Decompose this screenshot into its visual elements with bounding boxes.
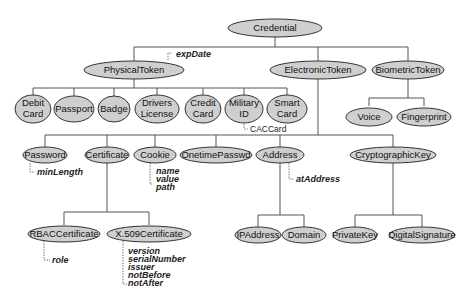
svg-text:BiometricToken: BiometricToken — [376, 64, 441, 75]
svg-text:Voice: Voice — [357, 111, 380, 122]
svg-text:Credit: Credit — [190, 97, 216, 108]
node-debit-card: Debit Card — [15, 95, 51, 123]
node-certificate: Certificate — [85, 147, 129, 163]
svg-text:Certificate: Certificate — [86, 149, 129, 160]
svg-text:Passport: Passport — [55, 103, 93, 114]
node-password: Password — [23, 147, 67, 163]
svg-text:Drivers: Drivers — [142, 97, 172, 108]
attr-path: path — [155, 182, 176, 192]
svg-text:DigitalSignature: DigitalSignature — [388, 229, 455, 240]
svg-text:Badge: Badge — [100, 103, 127, 114]
credential-taxonomy-diagram: Credential PhysicalToken ElectronicToken… — [0, 0, 463, 300]
svg-text:Address: Address — [263, 149, 298, 160]
node-cookie: Cookie — [134, 147, 176, 163]
node-x509-certificate: X.509Certificate — [107, 226, 191, 242]
node-smart-card: Smart Card — [267, 95, 307, 123]
node-domain: Domain — [282, 227, 326, 243]
node-credential: Credential — [228, 19, 322, 37]
svg-text:IPAddress: IPAddress — [236, 229, 279, 240]
svg-text:CryptographicKey: CryptographicKey — [355, 149, 431, 160]
attr-role: role — [52, 255, 69, 265]
svg-text:Smart: Smart — [274, 97, 300, 108]
attr-min-length: minLength — [37, 167, 83, 177]
node-badge: Badge — [98, 96, 130, 122]
node-credit-card: Credit Card — [185, 95, 221, 123]
node-military-id: Military ID — [225, 95, 263, 123]
svg-text:PhysicalToken: PhysicalToken — [104, 64, 165, 75]
node-private-key: PrivateKey — [332, 227, 378, 243]
node-drivers-license: Drivers License — [135, 95, 179, 123]
svg-text:ElectronicToken: ElectronicToken — [284, 64, 351, 75]
svg-text:Cookie: Cookie — [140, 149, 170, 160]
node-cryptographic-key: CryptographicKey — [350, 147, 436, 163]
node-rbac-certificate: RBACCertificate — [28, 226, 100, 242]
svg-text:ID: ID — [239, 108, 249, 119]
svg-text:Credential: Credential — [253, 22, 296, 33]
subtype-cac-card: CACCard — [250, 124, 287, 134]
svg-text:Card: Card — [23, 108, 44, 119]
svg-text:Fingerprint: Fingerprint — [401, 111, 447, 122]
node-electronic-token: ElectronicToken — [270, 61, 366, 79]
svg-text:Domain: Domain — [288, 229, 321, 240]
svg-text:Debit: Debit — [22, 97, 45, 108]
svg-text:X.509Certificate: X.509Certificate — [115, 228, 183, 239]
node-voice: Voice — [346, 108, 392, 126]
node-digital-signature: DigitalSignature — [388, 227, 455, 243]
node-passport: Passport — [54, 96, 94, 122]
node-ip-address: IPAddress — [235, 227, 281, 243]
svg-text:License: License — [141, 108, 174, 119]
svg-text:Card: Card — [193, 108, 214, 119]
node-address: Address — [256, 147, 304, 163]
svg-text:Card: Card — [277, 108, 298, 119]
node-fingerprint: Fingerprint — [397, 108, 451, 126]
node-onetime-passwd: OnetimePasswd — [180, 147, 252, 163]
svg-text:RBACCertificate: RBACCertificate — [29, 228, 98, 239]
svg-text:PrivateKey: PrivateKey — [332, 229, 378, 240]
node-physical-token: PhysicalToken — [84, 61, 184, 79]
attr-at-address: atAddress — [296, 174, 340, 184]
attr-exp-date: expDate — [176, 49, 211, 59]
svg-text:Military: Military — [229, 97, 259, 108]
svg-text:OnetimePasswd: OnetimePasswd — [181, 149, 250, 160]
node-biometric-token: BiometricToken — [372, 61, 444, 79]
svg-text:Password: Password — [24, 149, 66, 160]
attr-not-after: notAfter — [128, 278, 163, 288]
